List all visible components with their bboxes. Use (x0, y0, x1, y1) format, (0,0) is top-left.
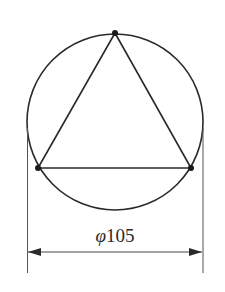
inscribed-triangle-diagram: φ105 (0, 0, 225, 292)
diameter-value: 105 (106, 225, 135, 246)
vertex-bottom-right (188, 165, 194, 171)
arrowhead-left-icon (28, 248, 41, 256)
vertex-top (112, 30, 118, 36)
arrowhead-right-icon (189, 248, 202, 256)
circle (27, 34, 203, 210)
dimension-label: φ105 (95, 225, 134, 246)
diameter-symbol: φ (95, 225, 106, 246)
vertex-bottom-left (35, 165, 41, 171)
